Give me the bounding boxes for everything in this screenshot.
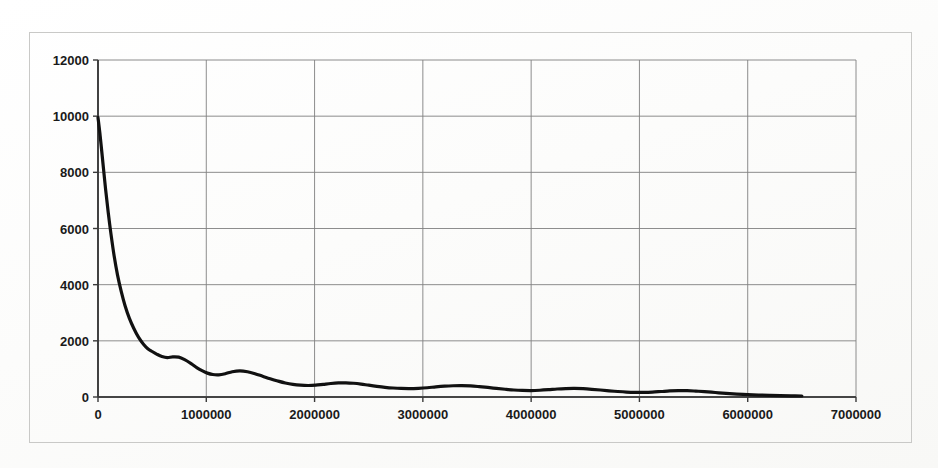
axis-ticks [93,60,856,402]
data-series-line [98,118,802,396]
chart-plot [0,0,938,468]
y-tick-label: 0 [82,390,89,405]
x-tick-label: 5000000 [614,407,665,422]
y-tick-label: 10000 [53,109,89,124]
x-tick-label: 6000000 [722,407,773,422]
chart-figure: 020004000600080001000012000 010000002000… [0,0,938,468]
x-tick-label: 1000000 [181,407,232,422]
y-tick-label: 12000 [53,53,89,68]
x-tick-label: 3000000 [398,407,449,422]
y-tick-label: 2000 [60,333,89,348]
y-tick-label: 4000 [60,277,89,292]
y-tick-label: 6000 [60,221,89,236]
x-tick-label: 7000000 [831,407,882,422]
gridlines-horizontal [98,60,856,397]
x-tick-label: 0 [94,407,101,422]
x-tick-label: 2000000 [289,407,340,422]
x-tick-label: 4000000 [506,407,557,422]
y-tick-label: 8000 [60,165,89,180]
